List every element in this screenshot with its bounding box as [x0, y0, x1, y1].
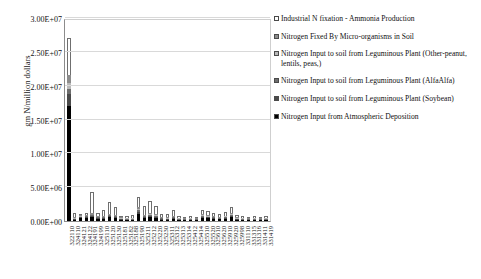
stacked-bar — [206, 211, 209, 221]
bar-segment — [67, 75, 70, 83]
bar-segment — [247, 220, 250, 221]
bar-segment — [235, 220, 238, 221]
bar-segment — [148, 217, 151, 221]
bar-segment — [218, 219, 221, 221]
bar-segment — [125, 220, 128, 221]
y-axis-tick-label: 1.00E+07 — [31, 150, 62, 159]
bar-segment — [230, 217, 233, 221]
legend-label: Nitrogen Input to soil from Leguminous P… — [281, 49, 479, 68]
stacked-bar — [114, 207, 117, 221]
chart-legend: Industrial N fixation - Ammonia Producti… — [274, 14, 479, 129]
legend-item: Nitrogen Input to soil from Leguminous P… — [274, 76, 479, 86]
stacked-bar — [224, 212, 227, 221]
legend-swatch-icon — [274, 114, 279, 119]
stacked-bar — [172, 210, 175, 221]
bar-segment — [183, 220, 186, 221]
bar-segment — [96, 219, 99, 221]
bar-segment — [224, 219, 227, 221]
bar-segment — [131, 220, 134, 221]
stacked-bar — [189, 216, 192, 221]
stacked-bar — [67, 38, 70, 221]
bar-segment — [108, 202, 111, 214]
stacked-bar — [96, 213, 99, 221]
bar-segment — [67, 106, 70, 221]
bar-segment — [253, 220, 256, 221]
bar-segment — [259, 220, 262, 221]
stacked-bar — [90, 192, 93, 221]
stacked-bar — [143, 206, 146, 221]
stacked-bar — [125, 216, 128, 221]
stacked-bar — [85, 213, 88, 221]
bar-segment — [114, 207, 117, 214]
bar-segment — [114, 218, 117, 221]
legend-swatch-icon — [274, 51, 279, 56]
y-axis-tick-label: 1.50E+07 — [31, 116, 62, 125]
bar-segment — [160, 220, 163, 221]
legend-label: Nitrogen Input to soil from Leguminous P… — [281, 76, 479, 86]
y-axis-tick-label: 2.50E+07 — [31, 48, 62, 57]
x-axis-tick-labels: 3221103241103241213241223241913241993251… — [64, 224, 271, 279]
stacked-bar — [160, 214, 163, 221]
bar-segment — [264, 220, 267, 221]
gridline — [65, 186, 270, 187]
stacked-bar — [253, 216, 256, 221]
bar-segment — [212, 219, 215, 221]
gridline — [65, 152, 270, 153]
stacked-bar — [119, 216, 122, 221]
y-axis-tick-labels: 0.00E+005.00E+061.00E+071.50E+072.00E+07… — [14, 0, 62, 225]
bar-segment — [241, 220, 244, 221]
plot-area — [64, 19, 271, 222]
stacked-bar — [218, 214, 221, 221]
legend-swatch-icon — [274, 34, 279, 39]
bar-segment — [73, 220, 76, 221]
stacked-bar — [259, 217, 262, 221]
bar-segment — [201, 218, 204, 221]
bar-segment — [102, 219, 105, 221]
stacked-bar — [102, 210, 105, 221]
stacked-bar — [137, 197, 140, 221]
legend-label: Nitrogen Input from Atmospheric Depositi… — [281, 112, 479, 122]
y-axis-tick-label: 2.00E+07 — [31, 82, 62, 91]
gridline — [65, 51, 270, 52]
bar-segment — [67, 94, 70, 106]
x-axis-tick-label: 331419 — [267, 226, 274, 246]
stacked-bar — [183, 217, 186, 221]
bar-segment — [177, 220, 180, 221]
bar-segment — [137, 197, 140, 207]
legend-swatch-icon — [274, 96, 279, 101]
bar-segment — [85, 218, 88, 221]
y-axis-tick-label: 3.00E+07 — [31, 15, 62, 24]
stacked-bar — [230, 207, 233, 221]
stacked-bar — [177, 216, 180, 221]
bar-segment — [230, 207, 233, 214]
bar-segment — [90, 192, 93, 213]
bar-segment — [143, 206, 146, 214]
bar-segment — [172, 219, 175, 221]
gridline — [65, 119, 270, 120]
stacked-bar — [235, 215, 238, 221]
legend-item: Nitrogen Input from Atmospheric Depositi… — [274, 112, 479, 122]
legend-item: Nitrogen Input to soil from Leguminous P… — [274, 94, 479, 104]
stacked-bar — [131, 215, 134, 221]
bar-segment — [108, 217, 111, 221]
bar-segment — [166, 220, 169, 221]
bar-segment — [143, 218, 146, 221]
bar-segment — [119, 220, 122, 221]
stacked-bar — [79, 214, 82, 221]
bar-segment — [67, 38, 70, 75]
legend-swatch-icon — [274, 16, 279, 21]
stacked-bar — [247, 217, 250, 221]
chart-figure: gm N/million dollars 0.00E+005.00E+061.0… — [0, 0, 481, 279]
x-tick-column: 331419 — [264, 224, 270, 279]
bar-segment — [206, 218, 209, 221]
legend-item: Nitrogen Input to soil from Leguminous P… — [274, 49, 479, 68]
bar-segment — [90, 217, 93, 221]
y-axis-tick-label: 5.00E+06 — [31, 184, 62, 193]
legend-label: Nitrogen Input to soil from Leguminous P… — [281, 94, 479, 104]
stacked-bar — [108, 202, 111, 221]
stacked-bar — [154, 206, 157, 221]
bar-segment — [189, 220, 192, 221]
gridline — [65, 17, 270, 18]
legend-label: Nitrogen Fixed By Micro-organisms in Soi… — [281, 32, 479, 42]
bar-segment — [154, 206, 157, 214]
